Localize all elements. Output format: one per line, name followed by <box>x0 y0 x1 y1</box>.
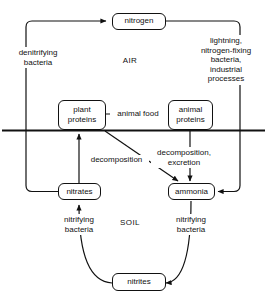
edge-label-denitrifying-bacteria: denitrifying bacteria <box>2 47 74 68</box>
node-ammonia[interactable]: ammonia <box>168 183 215 200</box>
edge-label-nitrogen-fixation: lightning, nitrogen-fixing bacteria, ind… <box>187 35 265 85</box>
edge-label-animal-food: animal food <box>110 109 166 119</box>
edge-label-decomposition: decomposition <box>84 155 149 165</box>
edge-label-nitrogen-fixation-line1: lightning, <box>187 36 265 46</box>
node-nitrites[interactable]: nitrites <box>112 273 166 291</box>
edge-label-nitrogen-fixation-line5: processes <box>187 74 265 84</box>
edge-label-nitrifying-bacteria-left-line2: bacteria <box>51 225 107 235</box>
node-animal-proteins-label-line2: proteins <box>176 115 204 125</box>
edge-label-nitrifying-bacteria-left: nitrifying bacteria <box>51 214 107 235</box>
node-nitrites-label: nitrites <box>127 277 151 287</box>
node-plant-proteins-label-line2: proteins <box>68 115 96 125</box>
edge-label-nitrifying-bacteria-right: nitrifying bacteria <box>163 214 219 235</box>
edge-label-nitrifying-bacteria-right-line1: nitrifying <box>163 215 219 225</box>
region-label-soil: SOIL <box>113 218 147 227</box>
edge-label-decomposition-excretion: decomposition, excretion <box>151 147 217 168</box>
node-nitrogen-label: nitrogen <box>125 16 154 26</box>
edge-label-decomposition-excretion-line2: excretion <box>151 158 217 168</box>
edge-label-decomposition-excretion-line1: decomposition, <box>151 148 217 158</box>
nitrogen-cycle-diagram: nitrogen plant proteins animal proteins … <box>0 0 267 301</box>
region-label-air: AIR <box>113 56 147 65</box>
edge-label-nitrogen-fixation-line3: bacteria, <box>187 55 265 65</box>
edge-label-nitrogen-fixation-line4: industrial <box>187 65 265 75</box>
edge-label-nitrifying-bacteria-right-line2: bacteria <box>163 225 219 235</box>
node-animal-proteins-label-line1: animal <box>179 105 203 115</box>
edge-label-nitrifying-bacteria-left-line1: nitrifying <box>51 215 107 225</box>
node-plant-proteins-label-line1: plant <box>73 105 90 115</box>
node-nitrates[interactable]: nitrates <box>58 183 101 200</box>
edge-label-denitrifying-bacteria-line1: denitrifying <box>2 48 74 58</box>
edge-label-nitrogen-fixation-line2: nitrogen-fixing <box>187 46 265 56</box>
node-nitrogen[interactable]: nitrogen <box>112 13 166 30</box>
node-animal-proteins[interactable]: animal proteins <box>168 100 213 130</box>
node-nitrates-label: nitrates <box>66 187 92 197</box>
edge-label-denitrifying-bacteria-line2: bacteria <box>2 58 74 68</box>
node-plant-proteins[interactable]: plant proteins <box>58 100 106 130</box>
node-ammonia-label: ammonia <box>175 187 208 197</box>
